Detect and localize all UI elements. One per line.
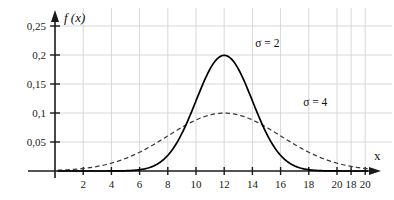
x-tick-label: 6 [137,178,143,190]
y-tick-label: 0,1 [32,107,46,119]
x-tick-label: 14 [247,178,259,190]
curve-annotation-sigma-4: σ = 4 [303,96,327,108]
y-tick-label: 0,15 [27,78,47,90]
x-tick-label: 4 [109,178,115,190]
x-tick-label: 12 [219,178,230,190]
gaussian-density-chart: 24681012141618201820 0,050,10,150,20,25 … [0,0,394,200]
x-tick-label: 20 [360,178,372,190]
y-tick-label: 0,25 [27,20,47,32]
x-tick-label: 2 [80,178,86,190]
x-tick-label: 18 [346,178,358,190]
x-tick-label: 16 [275,178,287,190]
y-axis-label: f (x) [64,10,85,25]
chart-container: 24681012141618201820 0,050,10,150,20,25 … [0,0,394,200]
y-tick-label: 0,2 [32,49,46,61]
x-tick-label: 10 [191,178,203,190]
x-tick-label: 20 [332,178,344,190]
y-tick-label: 0,05 [27,136,47,148]
x-tick-label: 8 [165,178,171,190]
curve-annotation-sigma-2: σ = 2 [255,37,279,49]
x-axis-label: x [374,148,381,163]
x-tick-label: 18 [303,178,315,190]
